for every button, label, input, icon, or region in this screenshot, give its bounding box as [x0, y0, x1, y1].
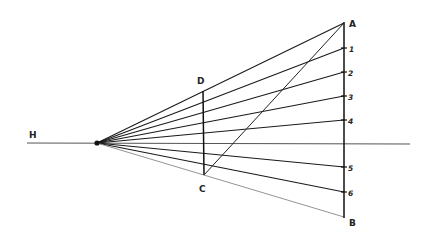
label-tick-4: 4	[348, 117, 353, 126]
label-a: A	[349, 19, 356, 29]
perspective-diagram: H A B D C 1 2 3 4 5 6	[0, 0, 432, 241]
label-tick-1: 1	[349, 45, 354, 54]
label-d: D	[197, 76, 204, 86]
label-tick-6: 6	[348, 189, 353, 198]
fan-lines	[97, 23, 344, 217]
label-tick-2: 2	[348, 69, 353, 78]
label-h: H	[29, 130, 37, 140]
label-tick-3: 3	[348, 93, 353, 102]
vanishing-point	[94, 140, 99, 145]
line-dc	[203, 91, 204, 175]
label-tick-5: 5	[348, 164, 353, 173]
label-c: C	[199, 184, 206, 194]
horizon-line	[27, 143, 410, 144]
diagonal-ca	[204, 23, 344, 175]
label-b: B	[349, 218, 356, 228]
